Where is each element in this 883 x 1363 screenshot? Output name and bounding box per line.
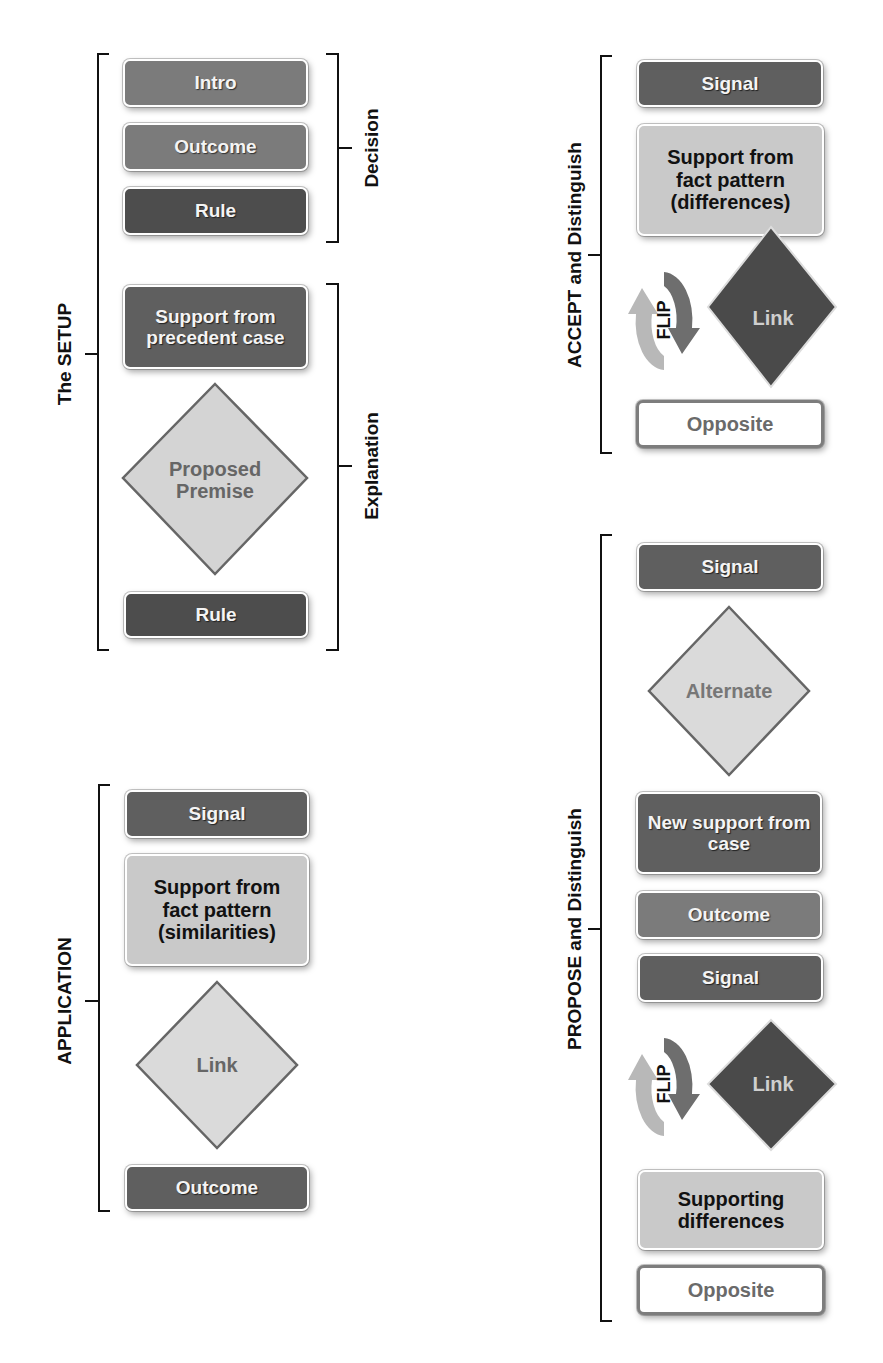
support-fact-differences-box: Support from fact pattern (differences) <box>637 124 824 236</box>
intro-box: Intro <box>123 59 308 107</box>
flip-label-propose: FLIP <box>653 1054 675 1114</box>
application-label: APPLICATION <box>53 936 77 1066</box>
explanation-bracket <box>337 283 339 651</box>
propose-label: PROPOSE and Distinguish <box>563 799 587 1059</box>
outcome-box-propose: Outcome <box>636 891 822 939</box>
setup-bracket-top <box>97 53 109 55</box>
proposed-premise-label: Proposed Premise <box>150 440 280 520</box>
accept-bracket-bottom <box>600 452 612 454</box>
outcome-box: Outcome <box>123 123 308 171</box>
setup-bracket <box>97 53 99 651</box>
application-bracket-bottom <box>98 1210 110 1212</box>
decision-bracket-bottom <box>326 241 338 243</box>
explanation-bracket-top <box>326 283 338 285</box>
setup-bracket-bottom <box>97 649 109 651</box>
explanation-label: Explanation <box>360 406 384 526</box>
opposite-box-propose: Opposite <box>637 1265 825 1315</box>
support-fact-similarities-box: Support from fact pattern (similarities) <box>125 854 309 966</box>
accept-bracket-top <box>600 55 612 57</box>
supporting-differences-box: Supporting differences <box>638 1170 824 1250</box>
decision-label: Decision <box>360 98 384 198</box>
rule-box-2: Rule <box>124 592 308 638</box>
application-bracket-tick <box>85 1000 99 1002</box>
setup-label: The SETUP <box>53 294 77 414</box>
signal-box: Signal <box>125 790 309 838</box>
decision-bracket-tick <box>338 147 352 149</box>
setup-bracket-tick <box>85 353 98 355</box>
explanation-bracket-tick <box>338 465 352 467</box>
application-bracket <box>98 784 100 1212</box>
signal-box-propose: Signal <box>637 543 823 591</box>
flip-label: FLIP <box>653 290 675 350</box>
link-label: Link <box>167 1045 267 1085</box>
new-support-box: New support from case <box>636 792 822 874</box>
link-label-accept: Link <box>733 300 813 336</box>
support-precedent-box: Support from precedent case <box>123 285 308 369</box>
propose-bracket-top <box>600 534 612 536</box>
propose-bracket-tick <box>588 928 601 930</box>
decision-bracket-top <box>326 53 338 55</box>
rule-box: Rule <box>123 187 308 235</box>
alternate-label: Alternate <box>669 671 789 711</box>
explanation-bracket-bottom <box>326 649 338 651</box>
propose-bracket-bottom <box>600 1320 612 1322</box>
signal-box-accept: Signal <box>637 60 823 107</box>
outcome-box-application: Outcome <box>125 1165 309 1211</box>
accept-label: ACCEPT and Distinguish <box>563 135 587 375</box>
signal-box-propose-2: Signal <box>638 954 823 1002</box>
application-bracket-top <box>98 784 110 786</box>
accept-bracket-tick <box>588 254 601 256</box>
link-label-propose: Link <box>733 1066 813 1102</box>
opposite-box-accept: Opposite <box>636 400 824 448</box>
